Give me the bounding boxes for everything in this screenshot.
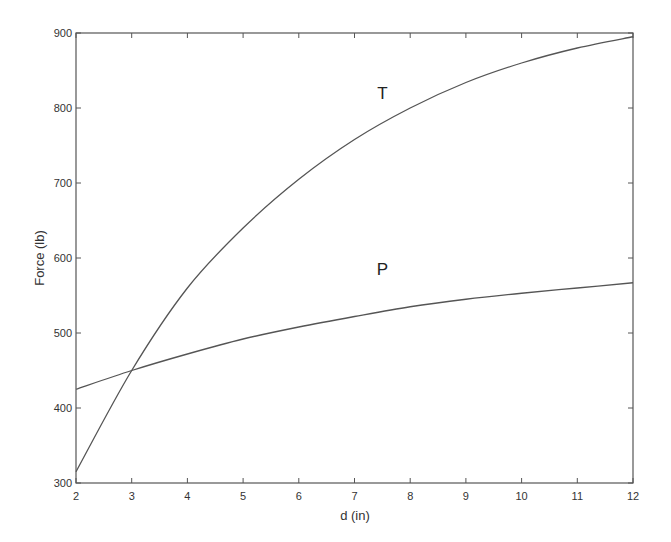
y-axis-label: Force (lb) <box>32 230 47 286</box>
x-tick-label: 8 <box>407 490 413 502</box>
y-tick-label: 800 <box>54 102 72 114</box>
x-tick-label: 2 <box>73 490 79 502</box>
y-tick-label: 500 <box>54 327 72 339</box>
y-tick-label: 400 <box>54 402 72 414</box>
x-tick-label: 4 <box>184 490 190 502</box>
curve-t <box>76 37 633 472</box>
x-axis-label: d (in) <box>340 508 370 523</box>
y-tick-label: 600 <box>54 252 72 264</box>
y-tick-label: 900 <box>54 27 72 39</box>
x-tick-label: 10 <box>515 490 527 502</box>
x-tick-label: 9 <box>463 490 469 502</box>
y-tick-label: 700 <box>54 177 72 189</box>
plot-frame <box>76 33 633 483</box>
curve-p <box>76 283 633 390</box>
curve-label-t: T <box>377 84 387 103</box>
x-tick-label: 7 <box>351 490 357 502</box>
x-tick-label: 11 <box>572 490 583 502</box>
axis-ticks: 23456789101112300400500600700800900 <box>54 27 639 502</box>
chart: TP 23456789101112300400500600700800900 d… <box>0 0 671 542</box>
plot-area: TP <box>76 37 633 472</box>
x-tick-label: 5 <box>240 490 246 502</box>
x-tick-label: 3 <box>129 490 135 502</box>
x-tick-label: 12 <box>627 490 639 502</box>
curve-label-p: P <box>377 260 388 279</box>
x-tick-label: 6 <box>296 490 302 502</box>
y-tick-label: 300 <box>54 477 72 489</box>
